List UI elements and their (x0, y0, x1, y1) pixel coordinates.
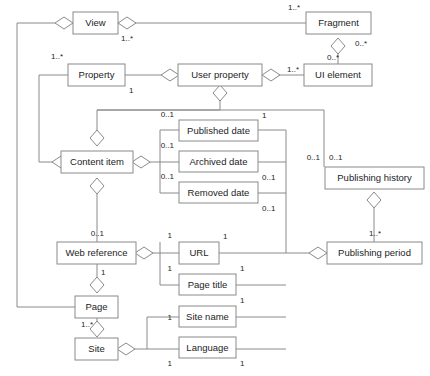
class-box-publishing-period[interactable]: Publishing period (327, 242, 422, 264)
multiplicity-m-sitename-right: 1 (240, 296, 245, 305)
d-content-top-diamond-icon (90, 130, 104, 146)
multiplicity-m-language-right: 1 (240, 359, 245, 368)
class-box-page[interactable]: Page (75, 296, 118, 318)
d-page-top-diamond-icon (90, 277, 104, 293)
multiplicity-m-site-page: 1..* (81, 320, 93, 329)
class-box-language-label: Language (186, 342, 228, 353)
d-user-left-diamond-icon (161, 69, 179, 81)
class-box-content-item[interactable]: Content item (61, 151, 133, 173)
class-box-page-title-label: Page title (188, 279, 228, 290)
multiplicity-m-fragment-ui: 0..* (355, 39, 367, 48)
d-content-bottom-diamond-icon (90, 178, 104, 194)
class-box-web-reference-label: Web reference (65, 247, 127, 258)
d-view-right-diamond-icon (118, 17, 136, 29)
multiplicity-m-removed-right: 0..1 (262, 204, 276, 213)
multiplicity-m-archived-right: 0..1 (262, 173, 276, 182)
multiplicity-m-pagetitle-right: 1 (240, 264, 245, 273)
class-box-ui-element[interactable]: UI element (304, 64, 372, 86)
d-site-right-diamond-icon (117, 343, 135, 355)
class-box-ui-element-label: UI element (315, 69, 361, 80)
multiplicity-m-property-user: 1 (129, 86, 134, 95)
multiplicity-m-published-right: 1 (262, 111, 267, 120)
multiplicity-m-period-history: 1..* (369, 229, 381, 238)
diagram-canvas: ViewFragmentPropertyUser propertyUI elem… (0, 0, 430, 376)
multiplicity-m-url-right: 1 (223, 232, 228, 241)
class-box-removed-date-label: Removed date (188, 187, 250, 198)
class-box-fragment-label: Fragment (318, 17, 359, 28)
d-history-bottom-diamond-icon (367, 192, 381, 208)
class-box-archived-date[interactable]: Archived date (179, 151, 258, 172)
class-box-layer: ViewFragmentPropertyUser propertyUI elem… (57, 12, 424, 360)
class-box-view-label: View (85, 17, 106, 28)
class-box-language[interactable]: Language (179, 337, 236, 358)
c-published-right (258, 130, 286, 253)
d-period-left-diamond-icon (309, 247, 327, 259)
d-user-bottom-diamond-icon (213, 85, 227, 101)
d-webref-right-diamond-icon (135, 247, 153, 259)
multiplicity-m-url-left: 1 (168, 231, 173, 240)
multiplicity-m-view-fragment: 1..* (121, 34, 133, 43)
class-box-site[interactable]: Site (75, 338, 118, 360)
class-box-property[interactable]: Property (68, 64, 125, 86)
d-user-right-diamond-icon (262, 69, 280, 81)
class-box-user-property[interactable]: User property (178, 64, 262, 86)
class-box-property-label: Property (79, 69, 115, 80)
multiplicity-m-pagetitle-left: 1 (168, 264, 173, 273)
class-box-publishing-period-label: Publishing period (338, 247, 411, 258)
d-fragment-bottom-diamond-icon (331, 38, 345, 54)
class-box-archived-date-label: Archived date (189, 156, 247, 167)
multiplicity-m-fragment-view: 1..* (288, 3, 300, 12)
class-box-user-property-label: User property (191, 69, 249, 80)
class-box-site-name-label: Site name (186, 311, 229, 322)
class-box-publishing-history[interactable]: Publishing history (325, 167, 424, 189)
multiplicity-m-page-webref: 1 (101, 268, 106, 277)
class-box-view[interactable]: View (73, 12, 118, 34)
class-box-removed-date[interactable]: Removed date (179, 182, 258, 203)
class-box-page-title[interactable]: Page title (179, 274, 236, 295)
multiplicity-m-sitename-left: 1 (168, 313, 173, 322)
multiplicity-m-archived-content: 0..1 (161, 141, 175, 150)
class-box-site-name[interactable]: Site name (179, 306, 236, 327)
class-box-site-label: Site (88, 343, 104, 354)
multiplicity-m-history-right: 0..1 (329, 153, 343, 162)
c-property-left-rail (39, 75, 68, 162)
d-view-left-diamond-icon (55, 17, 73, 29)
multiplicity-m-ui-user: 1..* (287, 65, 299, 74)
multiplicity-m-language-left: 1 (168, 359, 173, 368)
multiplicity-m-removed-content: 0..1 (161, 172, 175, 181)
class-box-content-item-label: Content item (70, 156, 124, 167)
multiplicity-m-ui-fragment: 0..* (327, 53, 339, 62)
class-box-page-label: Page (85, 301, 107, 312)
multiplicity-m-property-view: 1..* (51, 52, 63, 61)
d-content-right-diamond-icon (132, 156, 150, 168)
multiplicity-m-history-left: 0..1 (307, 153, 321, 162)
class-box-publishing-history-label: Publishing history (337, 172, 412, 183)
class-box-published-date-label: Published date (187, 125, 250, 136)
uml-class-diagram: ViewFragmentPropertyUser propertyUI elem… (0, 0, 430, 376)
class-box-web-reference[interactable]: Web reference (57, 242, 136, 264)
class-box-published-date[interactable]: Published date (179, 120, 258, 141)
class-box-fragment[interactable]: Fragment (306, 12, 371, 34)
multiplicity-m-published-content: 0..1 (161, 110, 175, 119)
class-box-url-label: URL (189, 247, 208, 258)
class-box-url[interactable]: URL (179, 242, 219, 264)
multiplicity-m-webref-content: 0..1 (91, 229, 105, 238)
